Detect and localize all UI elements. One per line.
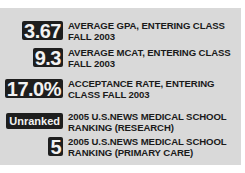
stat-label-line: RANKING (PRIMARY CARE) [68, 147, 243, 158]
stat-value-badge: Unranked [6, 113, 63, 129]
stat-primary-care-ranking: 5 2005 U.S.NEWS MEDICAL SCHOOL RANKING (… [0, 136, 241, 158]
stat-research-ranking: Unranked 2005 U.S.NEWS MEDICAL SCHOOL RA… [0, 111, 241, 133]
stat-label: 2005 U.S.NEWS MEDICAL SCHOOL RANKING (PR… [68, 136, 243, 158]
stats-panel: 3.67 AVERAGE GPA, ENTERING CLASS FALL 20… [0, 8, 241, 165]
stat-label-line: ACCEPTANCE RATE, ENTERING [68, 78, 243, 89]
stat-label-line: 2005 U.S.NEWS MEDICAL SCHOOL [68, 111, 243, 122]
stat-label-line: CLASS FALL 2003 [68, 89, 243, 100]
stat-acceptance-rate: 17.0% ACCEPTANCE RATE, ENTERING CLASS FA… [0, 78, 241, 100]
stat-average-gpa: 3.67 AVERAGE GPA, ENTERING CLASS FALL 20… [0, 20, 241, 42]
stat-label: 2005 U.S.NEWS MEDICAL SCHOOL RANKING (RE… [68, 111, 243, 133]
stat-value-badge: 3.67 [22, 21, 63, 40]
stat-label: AVERAGE GPA, ENTERING CLASS FALL 2003 [68, 20, 243, 42]
stat-label-line: FALL 2003 [68, 31, 243, 42]
stat-label-line: AVERAGE GPA, ENTERING CLASS [68, 20, 243, 31]
stat-label-line: FALL 2003 [68, 58, 243, 69]
stat-average-mcat: 9.3 AVERAGE MCAT, ENTERING CLASS FALL 20… [0, 47, 241, 69]
stat-label-line: AVERAGE MCAT, ENTERING CLASS [68, 47, 243, 58]
stat-label-line: RANKING (RESEARCH) [68, 122, 243, 133]
stat-label-line: 2005 U.S.NEWS MEDICAL SCHOOL [68, 136, 243, 147]
stat-value-badge: 9.3 [33, 48, 63, 67]
stat-label: AVERAGE MCAT, ENTERING CLASS FALL 2003 [68, 47, 243, 69]
stat-value-badge: 5 [48, 137, 63, 156]
stat-label: ACCEPTANCE RATE, ENTERING CLASS FALL 200… [68, 78, 243, 100]
stat-value-badge: 17.0% [5, 79, 63, 98]
